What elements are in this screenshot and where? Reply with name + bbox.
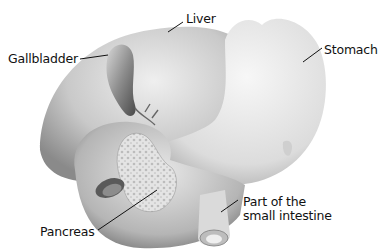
- label-gallbladder: Gallbladder: [8, 52, 78, 66]
- label-small-intestine-line2: small intestine: [243, 209, 332, 223]
- anatomy-diagram: Liver Gallbladder Stomach Pancreas Part …: [0, 0, 386, 252]
- label-small-intestine: Part of the small intestine: [243, 195, 332, 223]
- label-liver: Liver: [186, 12, 216, 26]
- label-small-intestine-line1: Part of the: [243, 195, 332, 209]
- label-stomach: Stomach: [324, 43, 378, 57]
- label-pancreas: Pancreas: [40, 225, 95, 239]
